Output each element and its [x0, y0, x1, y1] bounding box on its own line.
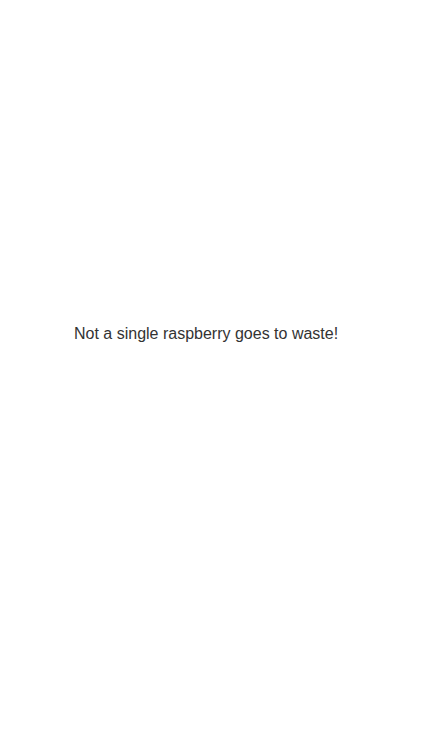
message-text: Not a single raspberry goes to waste! [74, 324, 338, 344]
page-container: Not a single raspberry goes to waste! [0, 0, 426, 745]
